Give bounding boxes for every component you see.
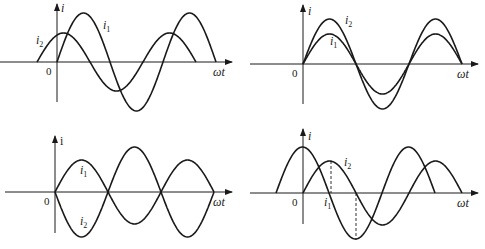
x-axis-label: ωt: [457, 67, 469, 81]
x-axis-label: ωt: [457, 196, 469, 210]
panel-top-right: i 0 ωt i2 i1: [250, 4, 478, 109]
y-axis-label: i: [61, 1, 64, 15]
y-axis-label: i: [60, 134, 64, 148]
y-axis-label: i: [308, 4, 311, 18]
panel-bottom-left: i 0 ωt i1 i2: [5, 134, 232, 237]
x-axis-label: ωt: [213, 195, 225, 209]
x-axis-label: ωt: [213, 65, 225, 79]
panel-top-left: i 0 ωt i1 i2: [0, 1, 232, 111]
origin-label: 0: [292, 67, 298, 79]
origin-label: 0: [44, 195, 50, 207]
label-i2: i2: [36, 33, 43, 49]
label-i2: i2: [80, 214, 87, 230]
origin-label: 0: [292, 196, 298, 208]
panel-bottom-right: i 0 ωt i2 i1: [250, 129, 478, 240]
label-i1: i1: [80, 163, 87, 179]
figure: i 0 ωt i1 i2 i 0 ωt i2 i1 i 0 ωt i1 i2 i: [0, 0, 485, 249]
origin-label: 0: [46, 65, 52, 77]
label-i2: i2: [344, 155, 351, 171]
label-i2: i2: [345, 13, 352, 29]
label-i1: i1: [103, 18, 110, 34]
y-axis-label: i: [308, 129, 311, 143]
